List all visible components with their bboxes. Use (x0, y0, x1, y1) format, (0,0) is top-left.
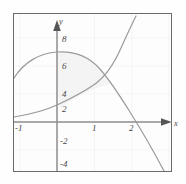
x-axis-label: x (174, 119, 178, 128)
x-axis-arrow-icon (161, 118, 172, 126)
gridlines (14, 14, 171, 171)
x-tick-label-1: 1 (92, 124, 97, 133)
y-tick-label-2: 2 (62, 105, 67, 114)
y-tick-label-4: 4 (62, 90, 67, 99)
y-tick-label-8: 8 (62, 35, 67, 44)
x-tick-label-neg1: -1 (15, 124, 23, 133)
y-tick-label-neg2: -2 (60, 137, 68, 146)
y-tick-label-neg4: -4 (60, 160, 68, 169)
y-axis-label: y (59, 17, 63, 26)
x-tick-label-2: 2 (129, 124, 134, 133)
y-tick-label-6: 6 (62, 62, 67, 71)
graph-figure: 8 6 4 2 -2 -4 -1 1 2 y x (0, 0, 186, 184)
plot-canvas (0, 0, 186, 184)
